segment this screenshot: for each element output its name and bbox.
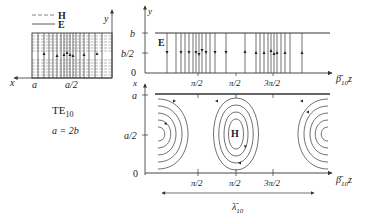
h-ytick-a: a: [132, 90, 137, 101]
e-ytick-b-half: b/2: [121, 48, 134, 59]
e-field-plot: y b b/2 0: [121, 6, 352, 88]
e-vertical-lines: [167, 33, 302, 73]
te10-diagram: H E: [0, 0, 369, 219]
mode-relation: a = 2b: [52, 125, 79, 136]
x-axis-label: x: [9, 77, 15, 88]
h-xtick-3: 3π/2: [263, 178, 281, 188]
y-axis-label: y: [103, 13, 109, 24]
wavelength-label: λ̄10: [231, 201, 244, 215]
e-xtick-2: π/2: [229, 78, 241, 88]
e-xtick-3: 3π/2: [263, 78, 281, 88]
wavelength-indicator: λ̄10: [162, 193, 314, 215]
h-field-plot: x a a/2 0: [124, 78, 352, 188]
mode-label: TE10 a = 2b: [52, 104, 79, 136]
e-ytick-0: 0: [131, 67, 136, 78]
mode-name: TE10: [52, 104, 73, 119]
h-ytick-0: 0: [133, 168, 138, 179]
h-xtick-2: π/2: [229, 178, 241, 188]
h-plot-z-label: β̄10z: [335, 174, 352, 188]
e-arrowheads: [43, 51, 99, 57]
tick-a: a: [32, 79, 37, 90]
e-xtick-1: π/2: [191, 78, 203, 88]
legend-e-label: E: [58, 19, 65, 30]
e-plot-field-label: E: [158, 37, 165, 48]
tick-a-half: a/2: [65, 79, 78, 90]
h-plot-top-label: x: [132, 78, 137, 88]
e-plot-y-label: y: [147, 6, 152, 16]
e-ytick-b: b: [130, 28, 135, 39]
e-plot-z-label: β̄10z: [335, 73, 352, 87]
h-ytick-a-half: a/2: [124, 130, 137, 141]
h-loops: [158, 98, 328, 170]
legend: H E: [32, 10, 66, 30]
e-plot-arrowheads: [166, 49, 304, 56]
h-xtick-1: π/2: [191, 178, 203, 188]
h-plot-field-label: H: [231, 128, 239, 139]
